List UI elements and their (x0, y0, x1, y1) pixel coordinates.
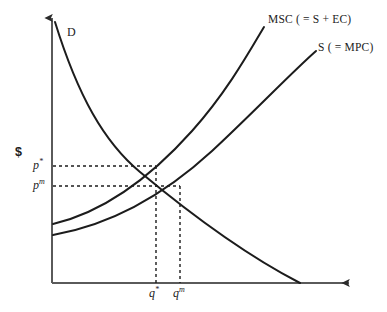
supply-curve-label: S ( = MPC) (318, 42, 373, 54)
quantity-label-market: qm (173, 287, 185, 299)
price-label-optimal: p* (33, 159, 43, 171)
price-label-optimal-superscript: * (39, 157, 43, 166)
quantity-label-optimal-superscript: * (155, 285, 159, 294)
guidelines-market-equilibrium (53, 186, 180, 283)
msc-curve-label: MSC ( = S + EC) (268, 14, 351, 26)
quantity-label-market-superscript: m (179, 285, 185, 294)
axis-lines (52, 18, 349, 283)
quantity-label-optimal: q* (149, 287, 159, 299)
price-label-market: pm (33, 179, 45, 191)
demand-curve-label: D (67, 26, 76, 38)
demand-curve (55, 22, 300, 283)
economics-diagram: D MSC ( = S + EC) S ( = MPC) $ p* pm q* … (0, 0, 387, 312)
y-axis-label-dollar: $ (15, 146, 22, 159)
price-label-market-superscript: m (39, 177, 45, 186)
msc-curve (53, 27, 264, 224)
guidelines-social-optimum (53, 166, 156, 283)
